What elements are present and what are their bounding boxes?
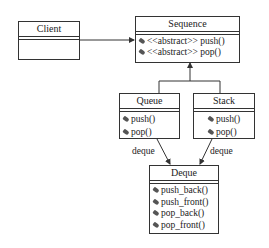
operation-icon <box>152 210 159 217</box>
operation-icon <box>152 198 159 205</box>
operation-icon <box>152 187 159 194</box>
operations-compartment <box>19 40 79 41</box>
operations-compartment: push_back() push_front() pop_back() pop_… <box>150 184 218 231</box>
class-sequence[interactable]: Sequence <<abstract>> push() <<abstract>… <box>135 16 240 63</box>
queue-deque-association <box>157 139 170 164</box>
operation: pop_back() <box>153 208 218 220</box>
class-queue[interactable]: Queue push() pop() <box>119 93 180 139</box>
operation: push() <box>123 113 179 126</box>
operations-compartment: push() pop() <box>120 112 179 139</box>
class-stack[interactable]: Stack push() pop() <box>193 93 255 139</box>
operation: pop() <box>208 126 254 139</box>
operation: pop() <box>123 126 179 139</box>
class-name: Stack <box>194 94 254 109</box>
class-client[interactable]: Client <box>18 21 80 60</box>
operation: pop_front() <box>153 220 218 232</box>
operations-compartment: <<abstract>> push() <<abstract>> pop() <box>136 35 239 58</box>
operations-compartment: push() pop() <box>194 112 254 139</box>
stack-deque-label: deque <box>210 146 233 156</box>
operation: push_front() <box>153 197 218 209</box>
operation-icon <box>207 116 214 123</box>
generalization-connector <box>159 81 220 93</box>
queue-deque-label: deque <box>132 146 155 156</box>
operation: <<abstract>> pop() <box>139 47 239 58</box>
class-name: Sequence <box>136 17 239 32</box>
class-name: Deque <box>150 166 218 181</box>
operation-icon <box>138 38 145 45</box>
operation-icon <box>138 49 145 56</box>
operation-icon <box>207 129 214 136</box>
operation-icon <box>122 116 129 123</box>
class-name: Queue <box>120 94 179 109</box>
operation-icon <box>122 129 129 136</box>
operation: push() <box>208 113 254 126</box>
class-deque[interactable]: Deque push_back() push_front() pop_back(… <box>149 165 219 234</box>
operation: <<abstract>> push() <box>139 36 239 47</box>
operation-icon <box>152 221 159 228</box>
operation: push_back() <box>153 185 218 197</box>
class-name: Client <box>19 22 79 37</box>
